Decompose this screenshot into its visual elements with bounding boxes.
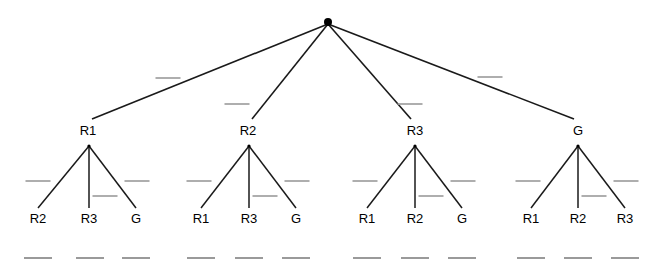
subtree-edge-5 [249,146,296,208]
internal-node-dot-3[interactable] [576,144,579,147]
root-edge-1 [252,24,328,119]
node-dot-group [87,18,579,148]
leaf-node-label-4: R3 [241,212,258,225]
root-node-dot[interactable] [324,18,332,26]
leaf-node-label-8: G [457,212,467,225]
subtree-edge-11 [578,146,625,208]
leaf-node-label-6: R1 [359,212,376,225]
root-edge-group [92,24,574,119]
leaf-node-label-7: R2 [407,212,424,225]
subtree-edge-6 [367,146,415,208]
leaf-node-label-9: R1 [523,212,540,225]
subtree-edge-8 [415,146,462,208]
leaf-node-label-5: G [291,212,301,225]
internal-node-dot-2[interactable] [413,144,416,147]
subtree-edge-0 [38,146,89,208]
root-edge-0 [92,24,328,119]
leaf-node-label-11: R3 [617,212,634,225]
leaf-node-label-0: R2 [30,212,47,225]
leaf-node-label-1: R3 [81,212,98,225]
subtree-edge-3 [201,146,249,208]
root-edge-3 [328,24,574,119]
subtree-edge-9 [531,146,578,208]
internal-node-label-0: R1 [80,124,97,137]
tree-edges-layer [0,0,659,273]
internal-node-label-1: R2 [240,124,257,137]
internal-node-label-2: R3 [407,124,424,137]
leaf-node-label-3: R1 [193,212,210,225]
internal-node-dot-1[interactable] [247,144,250,147]
subtree-edge-group [38,146,625,208]
leaf-node-label-2: G [131,212,141,225]
leaf-node-label-10: R2 [570,212,587,225]
edge-mark-group [26,77,639,196]
internal-node-dot-0[interactable] [87,144,90,147]
game-tree-diagram: R1R2R3G R2R3GR1R3GR1R2GR1R2R3 [0,0,659,273]
internal-node-label-3: G [573,124,583,137]
subtree-edge-2 [89,146,136,208]
